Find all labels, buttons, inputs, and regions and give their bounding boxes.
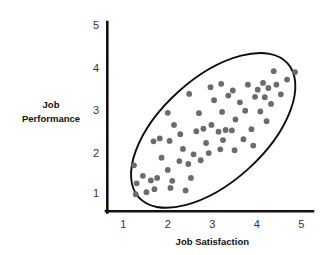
data-point	[217, 146, 223, 152]
data-point	[249, 126, 255, 132]
data-point	[268, 101, 274, 107]
data-point	[188, 175, 194, 181]
data-point	[180, 146, 186, 152]
data-point	[206, 150, 212, 156]
data-point	[233, 117, 239, 123]
data-point	[216, 129, 222, 135]
data-point	[229, 128, 235, 134]
y-axis-title-line2: Performance	[22, 113, 80, 124]
correlation-ellipse-group	[104, 25, 323, 236]
data-point	[171, 122, 177, 128]
data-point	[262, 94, 268, 100]
data-point	[237, 99, 243, 105]
x-tick-label-2: 2	[165, 218, 171, 230]
data-point	[265, 85, 271, 91]
data-point	[250, 143, 256, 149]
data-point	[201, 126, 207, 132]
data-point	[203, 140, 209, 146]
data-point	[154, 175, 160, 181]
y-tick-label-3: 3	[93, 104, 99, 116]
data-point	[148, 178, 154, 184]
data-point	[169, 178, 175, 184]
data-point	[220, 137, 226, 143]
x-axis-title: Job Satisfaction	[176, 236, 250, 247]
data-point	[242, 108, 248, 114]
data-point	[264, 118, 270, 124]
data-point	[273, 82, 279, 88]
x-tick-label-3: 3	[209, 218, 215, 230]
data-point	[167, 138, 173, 144]
data-point	[292, 69, 298, 75]
data-point	[177, 131, 183, 137]
scatter-chart-canvas: 5 4 3 2 1 1 2 3 4 5 Job Satisfaction Job…	[0, 0, 326, 255]
data-point	[271, 68, 277, 74]
data-point	[255, 87, 261, 93]
data-points-layer	[131, 68, 298, 197]
data-point	[257, 109, 263, 115]
data-point	[176, 158, 182, 164]
y-tick-label-2: 2	[93, 147, 99, 159]
data-point	[131, 162, 137, 168]
data-point	[245, 82, 251, 88]
data-point	[165, 110, 171, 116]
data-point	[230, 88, 236, 94]
data-point	[218, 81, 224, 87]
data-point	[191, 151, 197, 157]
data-point	[159, 155, 165, 161]
data-point	[211, 97, 217, 103]
data-point	[185, 161, 191, 167]
data-point	[144, 189, 150, 195]
data-point	[219, 109, 225, 115]
x-tick-label-1: 1	[120, 218, 126, 230]
data-point	[140, 173, 146, 179]
data-point	[196, 110, 202, 116]
x-tick-label-4: 4	[254, 218, 260, 230]
data-point	[186, 91, 192, 97]
data-point	[152, 186, 158, 192]
data-point	[168, 185, 174, 191]
y-tick-label-4: 4	[93, 62, 99, 74]
data-point	[157, 136, 163, 142]
scatterplot-figure: 5 4 3 2 1 1 2 3 4 5 Job Satisfaction Job…	[0, 0, 326, 255]
y-tick-label-5: 5	[93, 19, 99, 31]
x-tick-label-5: 5	[298, 218, 304, 230]
data-point	[208, 84, 214, 90]
y-axis-title-line1: Job	[43, 99, 60, 110]
data-point	[260, 80, 266, 86]
y-tick-labels: 5 4 3 2 1	[93, 19, 99, 199]
data-point	[241, 136, 247, 142]
correlation-envelope-ellipse	[104, 25, 323, 236]
data-point	[183, 188, 189, 194]
data-point	[134, 180, 140, 186]
data-point	[209, 122, 215, 128]
data-point	[278, 91, 284, 97]
data-point	[284, 77, 290, 83]
data-point	[252, 94, 258, 100]
data-point	[133, 191, 139, 197]
data-point	[165, 167, 171, 173]
data-point	[151, 138, 157, 144]
data-point	[232, 147, 238, 153]
y-tick-label-1: 1	[93, 187, 99, 199]
data-point	[225, 93, 231, 99]
data-point	[193, 128, 199, 134]
data-point	[223, 127, 229, 133]
data-point	[198, 157, 204, 163]
x-tick-labels: 1 2 3 4 5	[120, 218, 304, 230]
